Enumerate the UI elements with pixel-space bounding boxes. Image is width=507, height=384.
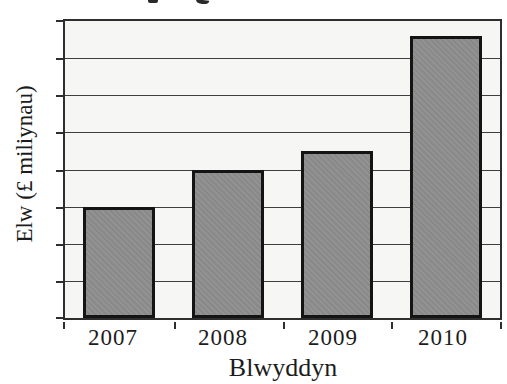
cropped-title-descender [196, 0, 209, 5]
bar-2010 [410, 36, 482, 318]
y-axis-tick [56, 132, 63, 134]
plot-area [63, 19, 502, 320]
y-axis-label: Elw (£ miliynau) [12, 69, 38, 259]
bar-2007 [83, 207, 155, 318]
x-tick-label-2008: 2008 [168, 325, 278, 351]
y-axis-tick [56, 58, 63, 60]
bar-2008 [192, 170, 264, 319]
y-axis-tick [56, 170, 63, 172]
x-axis-label: Blwyddyn [133, 353, 433, 383]
cropped-title-descender [148, 0, 158, 3]
x-tick-label-2007: 2007 [58, 325, 168, 351]
y-axis-tick [56, 281, 63, 283]
bar-chart-figure: Elw (£ miliynau) [0, 0, 507, 384]
x-axis-tick [500, 322, 502, 329]
y-axis-tick [56, 207, 63, 209]
y-axis-tick [56, 317, 63, 319]
x-tick-label-2010: 2010 [388, 325, 498, 351]
y-axis-tick [56, 20, 63, 22]
y-axis-tick [56, 95, 63, 97]
bar-2009 [301, 151, 373, 318]
x-tick-label-2009: 2009 [278, 325, 388, 351]
y-axis-tick [56, 244, 63, 246]
